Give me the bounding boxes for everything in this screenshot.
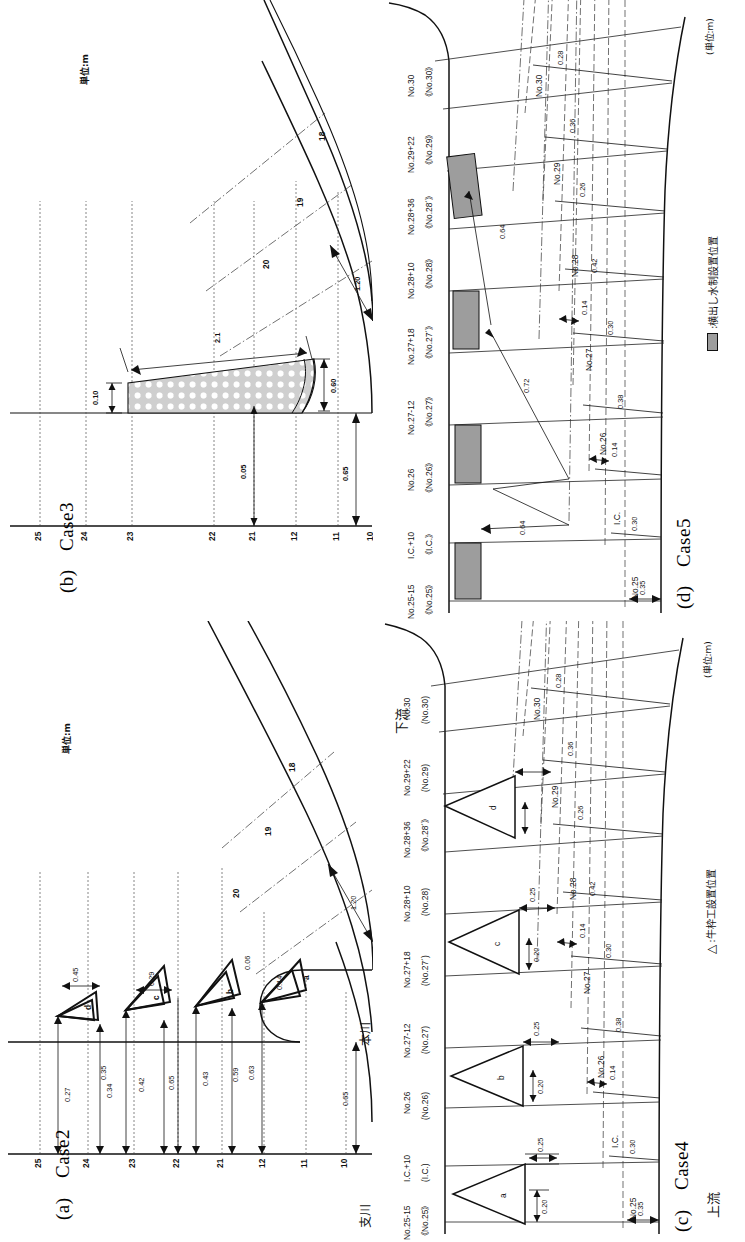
case4-station-top-7: No.29+22 [403,759,411,796]
case4-station-right-6: No.30 [533,698,541,720]
case2-station-21: 21 [216,1159,224,1168]
case4-legend-text: :牛枠工設置位置 [703,869,718,942]
case3-dim-0-60: 0.60 [330,379,337,393]
case4-title: Case4 [671,1141,693,1190]
case5-station-top-5: No.28+10 [407,262,415,299]
case4-station-top-3: No.27-12 [403,1024,411,1058]
case3-station-22: 22 [208,532,216,541]
case5-station-bot-5: 《No.28》 [425,255,433,293]
case5-station-right-2: No.26 [599,433,607,455]
case3-station-24: 24 [80,532,88,541]
case5-station-right-4: No.28 [571,255,579,277]
case3-station-10: 10 [366,532,373,541]
case3-station-21: 21 [248,532,256,541]
case2-dim-0-42: 0.42 [138,1078,145,1092]
case3-station-25: 25 [34,532,42,541]
case5-dimr-3: 0.38 [617,395,624,409]
case5-station-top-6: No.28+36 [407,198,415,235]
case2-tag: (a) [52,1197,74,1220]
case4-diml-2: 0.20 [537,1080,544,1094]
case2-unit-note: 単位:m [60,723,73,754]
case4-station-right-3: No.27 [583,972,591,994]
case2-structure-a [262,960,306,1002]
case5-station-top-4: No.27+18 [407,328,415,365]
case2-dim-0-65b: 0.65 [168,1076,175,1090]
case4-label-downstream: 下流 [391,708,410,734]
case2-label-d: d [84,1005,92,1010]
case5-station-top-7: No.29+22 [407,136,415,173]
case4-station-top-0: No.25-15 [403,1206,411,1240]
case5-dimr-4: 0.30 [607,321,614,335]
case5-dimr-7: 0.26 [579,183,586,197]
case3-dim-1-20: 1.20 [354,277,361,291]
case5-station-top-8: No.30 [407,75,415,97]
case5-station-top-1: I.C.+10 [407,532,415,559]
case5-dimm-0: 0.64 [519,521,526,535]
case2-dim-0-45: 0.45 [72,968,79,982]
case4-dimr-0: 0.35 [637,1202,644,1216]
case4-label-c: c [493,942,501,946]
case4-dimr-3: 0.38 [615,1018,622,1032]
case4-station-bot-0: 《No.25》 [421,1202,429,1240]
case2-station-23: 23 [128,1159,136,1168]
case4-label-upstream: 上流 [703,1192,722,1218]
case5-dimr-5: 0.42 [591,259,598,273]
case2-label-b: b [226,989,234,994]
case5-station-right-3: No.27 [585,349,593,371]
case4-station-bot-7: (No.29) [421,764,429,792]
case4-dimr-1: 0.30 [629,1140,636,1154]
case3-dim-0-10: 0.10 [92,391,99,405]
case4-dimr-4: 0.30 [605,944,612,958]
ushiwaku-legend-icon: △ [704,945,718,954]
case4-dimr-6: 0.14 [579,924,586,938]
case5-station-bot-1: 《I.C.》 [425,530,433,559]
case4-station-top-4: No.27+18 [403,951,411,988]
case4-station-bot-3: (No.27) [421,1026,429,1054]
case3-title: Case3 [56,502,78,551]
case5-station-top-3: No.27-12 [407,401,415,435]
case5-station-top-2: No.26 [407,469,415,491]
case5-dimm-2: 0.64 [499,225,506,239]
case3-station-18: 18 [318,132,326,141]
case2-station-18: 18 [288,763,296,772]
case3-tag: (b) [56,569,78,593]
case5-station-right-5: No.29 [553,163,561,185]
case4-station-right-1: I.C. [611,1135,619,1148]
case3-dim-0-65: 0.65 [342,467,349,481]
case2-dim-0-35: 0.35 [100,1066,107,1080]
case5-dimr-1: 0.30 [631,517,638,531]
case5-station-bot-6: 《No.28´》 [425,192,433,233]
case4-legend: △ :牛枠工設置位置 [703,869,718,954]
case3-dim-2-1: 2.1 [214,333,221,343]
case4-tag: (c) [671,1209,693,1232]
case4-station-top-2: No.26 [403,1092,411,1114]
case5-title: Case5 [673,518,695,567]
case3-dim-0-05: 0.05 [240,465,247,479]
case4-dimr-2: 0.14 [609,1066,616,1080]
case2-dim-0-65: 0.65 [342,1092,349,1106]
case2-station-11: 11 [300,1159,308,1168]
case2-dim-0-06: 0.06 [244,956,251,970]
case4-station-bot-1: (I.C.) [421,1163,429,1182]
case2-station-22: 22 [172,1159,180,1168]
case3-station-12: 12 [290,532,298,541]
case5-station-bot-8: 《No.30》 [425,63,433,101]
case3-unit-note: 単位:m [78,54,91,85]
case3-station-19: 19 [296,198,304,207]
case5-station-right-6: No.30 [535,75,543,97]
case4-station-bot-8: (No.30) [421,696,429,724]
case2-station-12: 12 [258,1159,266,1168]
case5-dimr-2: 0.14 [611,443,618,457]
case5-station-bot-3: 《No.27》 [425,393,433,431]
case5-dimm-1: 0.72 [523,379,530,393]
case4-station-top-1: I.C.+10 [403,1155,411,1182]
panel-case4: (c) Case4 [373,621,745,1242]
case4-label-a: a [499,1193,507,1198]
spur-dike-legend-icon [707,333,718,351]
case4-station-bot-4: (No.27´) [421,955,429,986]
case2-dim-0-14: 0.14 [276,976,283,990]
case4-dimr-9: 0.28 [555,674,562,688]
case5-station-bot-0: 《No.25》 [425,581,433,619]
case2-station-20: 20 [232,889,240,898]
case2-dim-0-27: 0.27 [64,1088,71,1102]
